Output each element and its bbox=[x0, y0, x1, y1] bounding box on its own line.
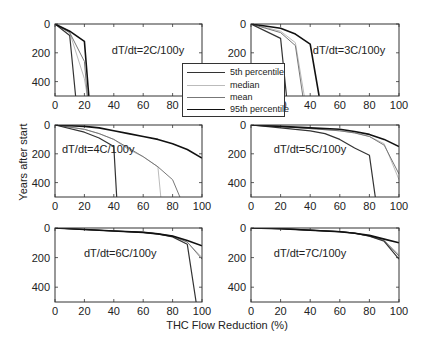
panel-3: 0204060801000200400dT/dt=4C/100y bbox=[32, 119, 212, 212]
x-tick-label: 20 bbox=[78, 305, 90, 317]
x-tick-label: 60 bbox=[334, 200, 346, 212]
x-tick-label: 0 bbox=[248, 200, 254, 212]
legend-label: 95th percentile bbox=[230, 104, 289, 114]
legend-swatch bbox=[187, 109, 225, 110]
series-line-95th-percentile bbox=[251, 228, 399, 243]
x-tick-label: 40 bbox=[304, 200, 316, 212]
x-tick-label: 20 bbox=[274, 200, 286, 212]
x-tick-label: 40 bbox=[304, 99, 316, 111]
series-line-median bbox=[55, 125, 161, 197]
legend-label: 5th percentile bbox=[230, 67, 284, 77]
y-tick-label: 0 bbox=[44, 18, 50, 30]
y-tick-label: 200 bbox=[32, 47, 50, 59]
y-tick-label: 400 bbox=[228, 281, 246, 293]
legend-label: median bbox=[230, 80, 260, 90]
y-tick-label: 0 bbox=[240, 18, 246, 30]
figure: 0204060801000200400dT/dt=2C/100y02040608… bbox=[0, 0, 426, 345]
axes-frame bbox=[55, 24, 202, 96]
x-tick-label: 80 bbox=[166, 99, 178, 111]
y-tick-label: 400 bbox=[32, 281, 50, 293]
legend-label: mean bbox=[230, 92, 253, 102]
series-group bbox=[55, 228, 202, 302]
legend-swatch bbox=[187, 72, 225, 73]
series-line-5th-percentile bbox=[55, 125, 117, 197]
x-axis-label: THC Flow Reduction (%) bbox=[166, 319, 288, 331]
series-line-5th-percentile bbox=[55, 24, 76, 96]
x-tick-label: 80 bbox=[363, 305, 375, 317]
x-tick-label: 80 bbox=[363, 99, 375, 111]
y-axis-label: Years after start bbox=[17, 123, 29, 200]
x-tick-label: 20 bbox=[78, 200, 90, 212]
series-group bbox=[55, 24, 89, 96]
legend-item-mean: mean bbox=[187, 91, 253, 103]
x-tick-label: 60 bbox=[334, 305, 346, 317]
axes-frame bbox=[55, 125, 202, 197]
x-tick-label: 80 bbox=[166, 305, 178, 317]
panel-title: dT/dt=3C/100y bbox=[313, 44, 386, 56]
x-tick-label: 20 bbox=[274, 305, 286, 317]
y-tick-label: 400 bbox=[228, 177, 246, 189]
series-line-95th-percentile bbox=[55, 228, 202, 246]
legend-item-5th-percentile: 5th percentile bbox=[187, 66, 284, 78]
x-tick-label: 100 bbox=[390, 305, 408, 317]
x-tick-label: 60 bbox=[334, 99, 346, 111]
x-tick-label: 0 bbox=[52, 305, 58, 317]
series-line-mean bbox=[55, 125, 180, 197]
y-tick-label: 400 bbox=[32, 76, 50, 88]
series-line-5th-percentile bbox=[55, 228, 196, 302]
series-group bbox=[251, 125, 399, 197]
x-tick-label: 100 bbox=[193, 305, 211, 317]
axes-frame bbox=[251, 125, 399, 197]
x-tick-label: 40 bbox=[108, 305, 120, 317]
panel-title: dT/dt=6C/100y bbox=[84, 247, 157, 259]
x-tick-label: 0 bbox=[52, 200, 58, 212]
legend-item-95th-percentile: 95th percentile bbox=[187, 103, 289, 115]
y-tick-label: 200 bbox=[32, 252, 50, 264]
panel-title: dT/dt=5C/100y bbox=[274, 143, 347, 155]
x-tick-label: 60 bbox=[137, 99, 149, 111]
y-tick-label: 0 bbox=[240, 222, 246, 234]
x-tick-label: 100 bbox=[390, 200, 408, 212]
y-tick-label: 200 bbox=[32, 148, 50, 160]
x-tick-label: 40 bbox=[108, 200, 120, 212]
series-line-mean bbox=[55, 24, 87, 96]
x-tick-label: 80 bbox=[166, 200, 178, 212]
y-tick-label: 200 bbox=[228, 47, 246, 59]
panel-4: 0204060801000200400dT/dt=5C/100y bbox=[228, 119, 409, 212]
panel-title: dT/dt=4C/100y bbox=[62, 143, 135, 155]
x-tick-label: 40 bbox=[108, 99, 120, 111]
x-tick-label: 60 bbox=[137, 200, 149, 212]
y-tick-label: 0 bbox=[44, 222, 50, 234]
y-tick-label: 200 bbox=[228, 252, 246, 264]
legend-swatch bbox=[187, 85, 225, 86]
legend-item-median: median bbox=[187, 79, 260, 91]
panel-title: dT/dt=7C/100y bbox=[274, 247, 347, 259]
legend: 5th percentile median mean 95th percenti… bbox=[182, 63, 285, 117]
y-tick-label: 0 bbox=[44, 119, 50, 131]
x-tick-label: 0 bbox=[248, 305, 254, 317]
series-group bbox=[55, 125, 202, 197]
x-tick-label: 80 bbox=[363, 200, 375, 212]
x-tick-label: 0 bbox=[52, 99, 58, 111]
y-tick-label: 400 bbox=[32, 177, 50, 189]
y-tick-label: 200 bbox=[228, 148, 246, 160]
x-tick-label: 60 bbox=[137, 305, 149, 317]
x-tick-label: 100 bbox=[390, 99, 408, 111]
panel-title: dT/dt=2C/100y bbox=[112, 44, 185, 56]
x-tick-label: 40 bbox=[304, 305, 316, 317]
y-tick-label: 0 bbox=[240, 119, 246, 131]
series-line-5th-percentile bbox=[251, 125, 375, 197]
x-tick-label: 20 bbox=[78, 99, 90, 111]
legend-swatch bbox=[187, 97, 225, 98]
panel-5: 0204060801000200400dT/dt=6C/100y bbox=[32, 222, 212, 317]
x-tick-label: 100 bbox=[193, 200, 211, 212]
panel-6: 0204060801000200400dT/dt=7C/100y bbox=[228, 222, 409, 317]
